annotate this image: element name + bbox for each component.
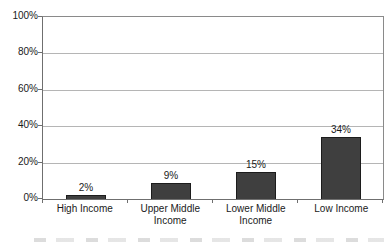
- y-tick-label: 0%: [0, 193, 38, 203]
- y-tick-label: 100%: [0, 11, 38, 21]
- y-tick-label: 20%: [0, 157, 38, 167]
- plot-area: 2%9%15%34%: [42, 16, 384, 200]
- x-tick-mark: [42, 199, 43, 203]
- y-axis-labels: 0%20%40%60%80%100%: [0, 0, 38, 244]
- x-axis-labels: High IncomeUpper Middle IncomeLower Midd…: [42, 203, 384, 226]
- y-tick-label: 80%: [0, 47, 38, 57]
- bar-lower-middle-income: [236, 172, 276, 199]
- y-tick-mark: [38, 16, 42, 17]
- y-tick-label: 60%: [0, 84, 38, 94]
- category-label: High Income: [42, 203, 128, 226]
- y-tick-mark: [38, 52, 42, 53]
- y-tick-mark: [38, 162, 42, 163]
- category-label: Lower Middle Income: [213, 203, 299, 226]
- bar-value-label: 9%: [164, 170, 178, 181]
- category-label: Low Income: [299, 203, 385, 226]
- bar-value-label: 2%: [79, 182, 93, 193]
- bar-chart: 0%20%40%60%80%100% 2%9%15%34% High Incom…: [0, 0, 392, 244]
- x-tick-mark: [297, 199, 298, 203]
- bar-upper-middle-income: [151, 183, 191, 199]
- x-tick-mark: [212, 199, 213, 203]
- x-tick-mark: [382, 199, 383, 203]
- category-label: Upper Middle Income: [128, 203, 214, 226]
- bar-value-label: 34%: [331, 124, 351, 135]
- y-tick-label: 40%: [0, 120, 38, 130]
- y-tick-mark: [38, 89, 42, 90]
- bar-low-income: [321, 137, 361, 199]
- gridline-60: [43, 90, 383, 91]
- cropped-caption-remnant: [34, 238, 384, 242]
- y-tick-mark: [38, 125, 42, 126]
- bar-high-income: [66, 195, 106, 199]
- bar-value-label: 15%: [246, 159, 266, 170]
- x-tick-mark: [127, 199, 128, 203]
- gridline-80: [43, 53, 383, 54]
